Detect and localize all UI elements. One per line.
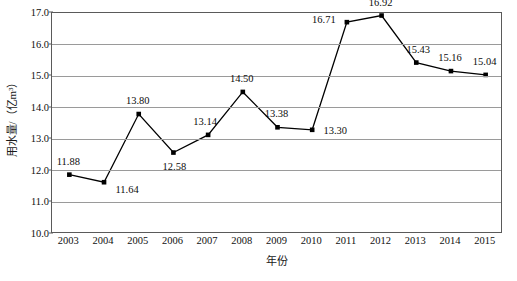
x-tick-label: 2003 <box>58 235 79 246</box>
x-tick-label: 2010 <box>301 235 322 246</box>
x-axis-title-text: 年份 <box>266 252 288 268</box>
data-point-marker <box>206 133 211 138</box>
x-tick-label: 2013 <box>405 235 426 246</box>
x-tick-label: 2007 <box>197 235 218 246</box>
y-tick-label: 12.0 <box>21 164 49 175</box>
gridline <box>52 202 501 203</box>
y-tick-label: 16.0 <box>21 38 49 49</box>
gridline <box>52 44 501 45</box>
data-point-marker <box>345 20 350 25</box>
x-tick-label: 2012 <box>370 235 391 246</box>
x-tick-label: 2005 <box>127 235 148 246</box>
y-tick-label: 13.0 <box>21 133 49 144</box>
data-point-marker <box>275 125 280 130</box>
data-point-marker <box>171 150 176 155</box>
line-series <box>52 13 503 234</box>
gridline <box>52 139 501 140</box>
chart-page: 用水量/（亿m³） 17.016.015.014.013.012.011.010… <box>0 0 517 281</box>
x-tick-label: 2011 <box>336 235 357 246</box>
data-point-marker <box>67 172 72 177</box>
data-point-marker <box>241 90 246 95</box>
x-tick-label: 2008 <box>231 235 252 246</box>
y-tick-label: 17.0 <box>21 7 49 18</box>
gridline <box>52 107 501 108</box>
data-point-label: 16.92 <box>369 0 393 7</box>
data-point-marker <box>136 112 141 117</box>
data-point-marker <box>449 69 454 74</box>
data-point-marker <box>414 60 419 65</box>
x-tick-label: 2014 <box>439 235 460 246</box>
y-tick-label: 14.0 <box>21 101 49 112</box>
gridline <box>52 76 501 77</box>
x-axis-title: 年份 <box>0 252 517 268</box>
y-axis-ticks: 17.016.015.014.013.012.011.010.0 <box>18 0 49 281</box>
x-axis-ticks: 2003200420052006200720082009201020112012… <box>51 235 502 251</box>
plot-area <box>51 12 502 233</box>
y-tick-label: 11.0 <box>21 196 49 207</box>
x-tick-label: 2004 <box>93 235 114 246</box>
gridline <box>52 170 501 171</box>
x-tick-label: 2006 <box>162 235 183 246</box>
y-tick-label: 10.0 <box>21 228 49 239</box>
data-point-marker <box>379 13 384 18</box>
data-point-marker <box>102 180 107 185</box>
y-tick-label: 15.0 <box>21 70 49 81</box>
x-tick-label: 2015 <box>474 235 495 246</box>
y-axis-title-text: 用水量/（亿m³） <box>3 76 19 157</box>
series-line <box>69 16 485 183</box>
data-point-marker <box>310 128 315 133</box>
x-tick-label: 2009 <box>266 235 287 246</box>
